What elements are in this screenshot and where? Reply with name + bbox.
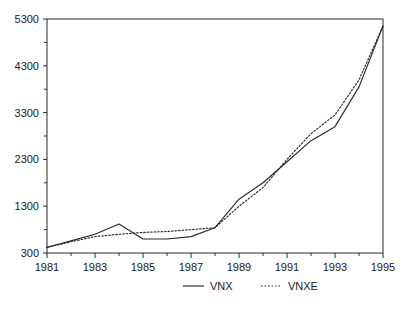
x-axis-ticks <box>47 253 383 258</box>
x-tick-label: 1989 <box>227 261 251 273</box>
x-tick-label: 1981 <box>35 261 59 273</box>
legend-label-vnxe: VNXE <box>288 280 318 292</box>
y-tick-label: 4300 <box>15 60 39 72</box>
y-tick-label: 5300 <box>15 13 39 25</box>
chart-legend: VNXVNXE <box>183 280 318 292</box>
x-tick-label: 1993 <box>323 261 347 273</box>
x-axis-labels: 19811983198519871989199119931995 <box>35 261 395 273</box>
x-tick-label: 1995 <box>371 261 395 273</box>
y-tick-label: 2300 <box>15 153 39 165</box>
line-chart: 30013002300330043005300 1981198319851987… <box>0 0 414 309</box>
y-axis-ticks <box>43 19 47 253</box>
x-tick-label: 1985 <box>131 261 155 273</box>
x-tick-label: 1991 <box>275 261 299 273</box>
y-axis-labels: 30013002300330043005300 <box>15 13 39 259</box>
y-tick-label: 3300 <box>15 107 39 119</box>
y-tick-label: 300 <box>21 247 39 259</box>
chart-container: 30013002300330043005300 1981198319851987… <box>0 0 414 309</box>
plot-frame <box>47 19 383 253</box>
x-tick-label: 1983 <box>83 261 107 273</box>
series-line-vnx <box>47 26 383 247</box>
legend-label-vnx: VNX <box>210 280 233 292</box>
y-tick-label: 1300 <box>15 200 39 212</box>
x-tick-label: 1987 <box>179 261 203 273</box>
series-line-vnxe <box>47 26 383 247</box>
